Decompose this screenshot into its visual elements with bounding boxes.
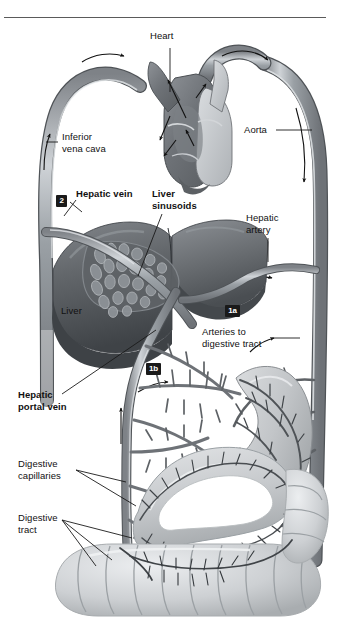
label-digestive-capillaries: Digestive capillaries bbox=[18, 458, 61, 481]
label-hepatic-portal-vein: Hepatic portal vein bbox=[18, 389, 67, 412]
badge-step-1a: 1a bbox=[225, 305, 240, 317]
label-aorta: Aorta bbox=[244, 124, 267, 136]
label-digestive-tract: Digestive tract bbox=[18, 512, 58, 535]
badge-step-1b: 1b bbox=[146, 363, 161, 375]
label-arteries-to-digestive-tract: Arteries to digestive tract bbox=[202, 326, 261, 349]
anatomy-figure: Heart Aorta Inferior vena cava Hepatic v… bbox=[0, 0, 339, 639]
label-heart: Heart bbox=[150, 30, 173, 42]
label-liver-sinusoids: Liver sinusoids bbox=[152, 188, 197, 211]
anatomy-illustration bbox=[0, 0, 339, 639]
badge-step-2: 2 bbox=[56, 195, 67, 207]
label-inferior-vena-cava: Inferior vena cava bbox=[62, 131, 106, 154]
label-liver: Liver bbox=[61, 305, 82, 317]
heart-structure bbox=[148, 60, 232, 194]
label-hepatic-vein: Hepatic vein bbox=[76, 188, 133, 200]
label-hepatic-artery: Hepatic artery bbox=[246, 212, 279, 235]
